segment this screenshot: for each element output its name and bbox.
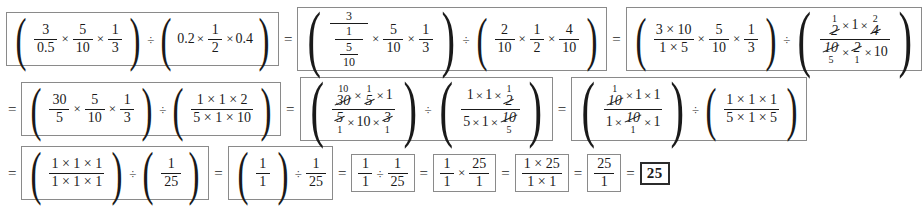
fraction-1x1x2-over-5x1x10: 1 × 1 × 2 5 × 1 × 10 xyxy=(191,93,253,125)
paren-group-3b: ( 1 2 × 1 × 2 4 xyxy=(792,10,917,68)
paren-group-5b: ( 1 × 1 × 1 2 xyxy=(434,80,548,138)
times-icon: × xyxy=(470,116,481,129)
paren-group-4b: ( 1 × 1 × 2 5 × 1 × 10 ) xyxy=(168,85,276,133)
divide-icon: ÷ xyxy=(460,33,471,46)
paren-group-6a: ( 1 10 × 1 × 1 xyxy=(576,80,690,138)
times-icon: × xyxy=(862,46,873,59)
final-answer-box: 25 xyxy=(640,162,670,185)
inner-fraction: 1 5 10 xyxy=(335,25,363,68)
expression-box-step-8: ( 1 1 ) ÷ 1 25 xyxy=(228,146,333,200)
term-1: 1 xyxy=(653,115,660,129)
paren-group-3a: ( 3 × 10 1 × 5 × 5 10 × 1 xyxy=(631,15,782,63)
paren-group-6b: ( 1 × 1 × 1 5 × 1 × 5 ) xyxy=(701,85,802,133)
solution-row-1: ( 3 0.5 × 5 10 × 1 xyxy=(6,4,574,74)
fraction-4-over-10: 4 10 xyxy=(559,23,579,55)
times-icon: × xyxy=(405,31,416,47)
fraction-2-over-10: 2 10 xyxy=(495,23,515,55)
fraction-1-over-3: 1 3 xyxy=(108,23,122,55)
paren-group-1a: ( 3 0.5 × 5 10 × 1 xyxy=(11,15,145,63)
innermost-fraction: 5 10 xyxy=(340,41,358,68)
paren-group-2a: ( 3 1 5 xyxy=(302,10,460,68)
fraction-1-over-2: 1 2 xyxy=(530,23,544,55)
times-icon: × xyxy=(95,31,106,47)
fraction-5-over-10: 5 10 xyxy=(85,93,105,125)
paren-right-icon: ) xyxy=(258,15,269,63)
cancelled-fraction-6a: 1 10 × 1 × 1 1 × xyxy=(604,84,663,135)
times-icon: × xyxy=(224,31,235,47)
paren-right-icon: ) xyxy=(189,149,200,197)
term-1: 1 xyxy=(482,115,489,129)
cancelled-fraction-5a: 10 30 × 1 5 × 1 xyxy=(332,84,395,135)
paren-left-icon: ( xyxy=(31,85,42,133)
expression-box-step-9: 1 1 ÷ 1 25 xyxy=(351,154,414,192)
term-10: 10 xyxy=(357,115,371,129)
times-icon: × xyxy=(642,89,653,102)
paren-group-5a: ( 10 30 × 1 5 × xyxy=(305,80,423,138)
paren-right-icon: ) xyxy=(130,15,141,63)
complex-fraction-3-over-1-over-5-over-10: 3 1 5 10 xyxy=(330,10,368,68)
fraction-1-over-1: 1 1 xyxy=(256,157,270,189)
term-1: 1 xyxy=(653,88,660,102)
term-1: 1 xyxy=(635,88,642,102)
fraction-5-over-10: 5 10 xyxy=(73,23,93,55)
term-1: 1 xyxy=(485,88,492,102)
times-icon: × xyxy=(371,116,382,129)
paren-group-7a: ( 1 × 1 × 1 1 × 1 × 1 ) xyxy=(26,149,127,197)
paren-left-icon: ( xyxy=(143,149,154,197)
cancelled-term-10-to-1: 10 1 xyxy=(625,111,641,135)
equals-sign: = xyxy=(553,102,571,117)
solution-row-2: = ( 30 5 × 5 10 × xyxy=(6,74,574,144)
paren-right-icon: ) xyxy=(671,80,685,138)
times-icon: × xyxy=(696,31,707,47)
equals-sign: = xyxy=(6,166,21,181)
times-icon: × xyxy=(71,101,82,117)
paren-left-icon: ( xyxy=(31,149,42,197)
fraction-1-over-25: 1 25 xyxy=(161,157,181,189)
cancelled-term-10-to-1: 1 10 xyxy=(607,84,623,108)
divide-icon: ÷ xyxy=(293,167,304,180)
expression-box-step-10: 1 1 × 25 1 xyxy=(433,154,496,192)
divide-icon: ÷ xyxy=(374,167,385,180)
equals-sign: = xyxy=(6,102,21,117)
expression-box-step-1: ( 3 0.5 × 5 10 × 1 xyxy=(6,12,279,66)
paren-right-icon: ) xyxy=(142,85,153,133)
times-icon: × xyxy=(489,116,500,129)
fraction-1-over-1: 1 1 xyxy=(440,157,454,189)
times-icon: × xyxy=(375,89,386,102)
cancelled-fraction-5b: 1 × 1 × 1 2 5 × xyxy=(461,84,520,135)
cancelled-term-4-to-2: 2 4 xyxy=(871,14,880,38)
equals-sign: = xyxy=(279,32,297,47)
paren-left-icon: ( xyxy=(15,15,26,63)
fraction-5-over-10: 5 10 xyxy=(709,23,729,55)
cancelled-term-3-to-1: 3 1 xyxy=(383,111,392,135)
paren-left-icon: ( xyxy=(798,10,812,68)
fraction-1-over-3: 1 3 xyxy=(744,23,758,55)
cancelled-term-5-to-1: 1 5 xyxy=(365,84,374,108)
paren-right-icon: ) xyxy=(403,80,417,138)
cancelled-term-2-to-1: 1 2 xyxy=(504,84,513,108)
cancelled-term-2-to-1: 1 2 xyxy=(830,14,839,38)
times-icon: × xyxy=(107,101,118,117)
fraction-1-over-2: 1 2 xyxy=(208,23,222,55)
paren-left-icon: ( xyxy=(237,149,248,197)
paren-group-4a: ( 30 5 × 5 10 × 1 xyxy=(26,85,157,133)
term-5: 5 xyxy=(463,115,470,129)
times-icon: × xyxy=(345,116,356,129)
fraction-3-over-0.5: 3 0.5 xyxy=(34,23,58,55)
fraction-1-over-25: 1 25 xyxy=(388,157,408,189)
paren-left-icon: ( xyxy=(173,85,184,133)
times-icon: × xyxy=(474,89,485,102)
paren-group-2b: ( 2 10 × 1 2 × 4 xyxy=(472,15,603,63)
times-icon: × xyxy=(840,19,851,32)
times-icon: × xyxy=(59,31,70,47)
paren-left-icon: ( xyxy=(476,15,487,63)
expression-box-step-11: 1 × 25 1 × 1 xyxy=(515,154,569,192)
times-icon: × xyxy=(352,89,363,102)
paren-group-1b: ( 0.2 × 1 2 × 0.4 ) xyxy=(156,15,274,63)
times-icon: × xyxy=(624,89,635,102)
term-1: 1 xyxy=(386,88,393,102)
times-icon: × xyxy=(731,31,742,47)
paren-right-icon: ) xyxy=(766,15,777,63)
times-icon: × xyxy=(613,116,624,129)
solution-row-3: = ( 1 × 1 × 1 1 × 1 × 1 ) ÷ ( xyxy=(6,144,574,202)
